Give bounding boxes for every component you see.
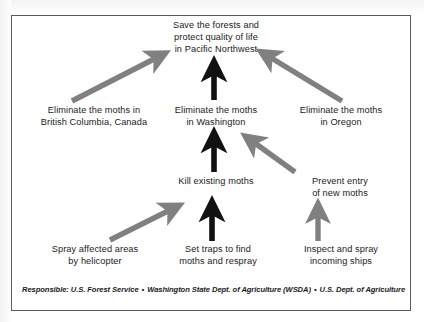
node-british-columbia: Eliminate the moths in British Columbia,…: [18, 105, 170, 129]
footer-org-three: U.S. Dept. of Agriculture: [319, 285, 405, 294]
node-prevent-entry: Prevent entry of new moths: [282, 176, 398, 200]
diagram-canvas: Save the forests and protect quality of …: [0, 0, 424, 322]
node-kill-existing-moths: Kill existing moths: [150, 176, 282, 188]
node-inspect-ships: Inspect and spray incoming ships: [278, 244, 404, 268]
footer-org-two: Washington State Dept. of Agriculture (W…: [147, 285, 311, 294]
footer-separator-1: •: [139, 285, 148, 294]
footer-responsible-label: Responsible: U.S. Forest Service: [22, 285, 139, 294]
node-goal: Save the forests and protect quality of …: [143, 20, 289, 55]
node-oregon: Eliminate the moths in Oregon: [278, 105, 404, 129]
node-spray-by-helicopter: Spray affected areas by helicopter: [24, 244, 166, 268]
page-edge-shading-left: [0, 0, 11, 322]
responsible-parties-footer: Responsible: U.S. Forest Service•Washing…: [22, 285, 402, 294]
node-washington: Eliminate the moths in Washington: [152, 105, 280, 129]
page-edge-shading-top: [0, 0, 424, 15]
node-set-traps: Set traps to find moths and respray: [152, 244, 284, 268]
